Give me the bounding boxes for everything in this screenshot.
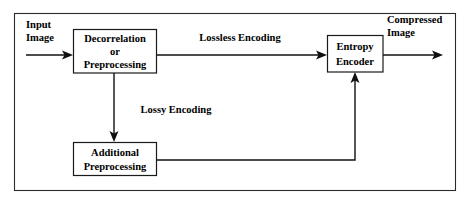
node-entropy-encoder-label-line1: Entropy (336, 41, 374, 52)
block-diagram: Decorrelation or Preprocessing Entropy E… (0, 0, 472, 204)
node-decorrelation-label-line3: Preprocessing (84, 59, 147, 70)
input-image-label-line2: Image (26, 32, 54, 43)
feedback-flow-line (156, 77, 355, 160)
node-additional-preprocessing-label-line2: Preprocessing (84, 161, 147, 172)
node-decorrelation-label-line1: Decorrelation (84, 33, 146, 44)
compressed-image-label-line1: Compressed (387, 14, 442, 25)
node-decorrelation-label-line2: or (110, 46, 120, 57)
input-image-label-line1: Input (26, 19, 52, 30)
lossy-encoding-edge-label: Lossy Encoding (141, 104, 213, 115)
node-entropy-encoder-label-line2: Encoder (336, 56, 374, 67)
compressed-image-label-line2: Image (387, 27, 415, 38)
lossless-encoding-edge-label: Lossless Encoding (199, 32, 281, 43)
node-additional-preprocessing-label-line1: Additional (91, 147, 139, 158)
diagram-canvas: Decorrelation or Preprocessing Entropy E… (0, 0, 472, 204)
